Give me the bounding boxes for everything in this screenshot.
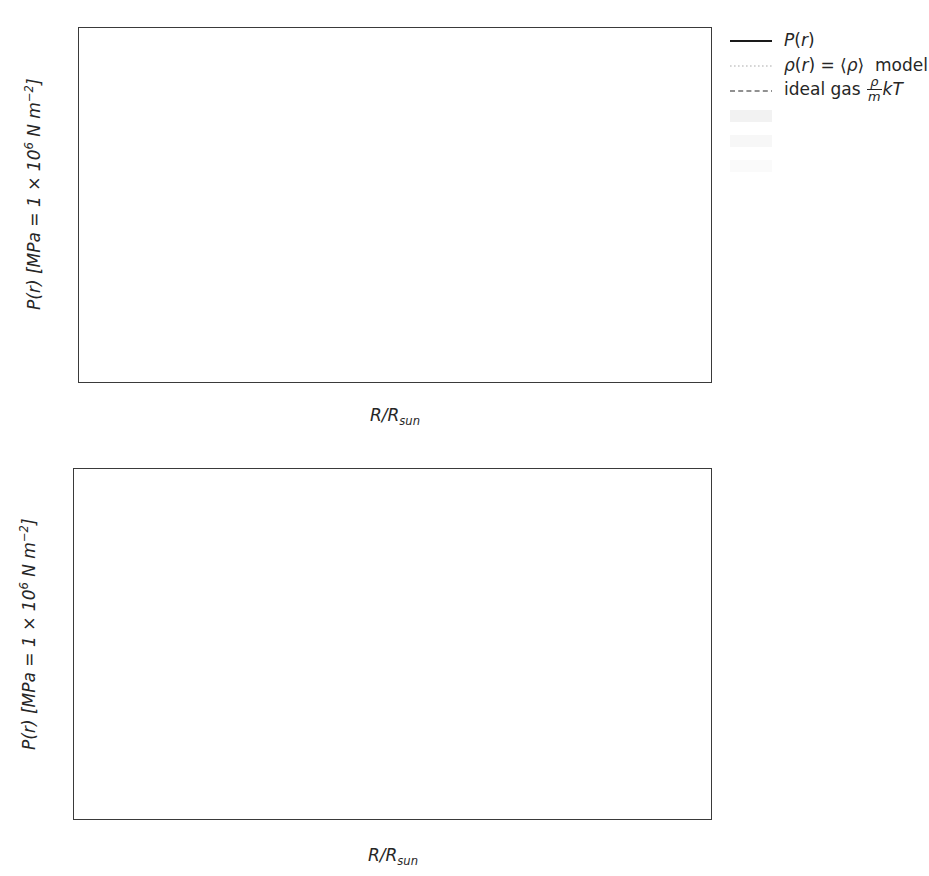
figure-canvas: R/Rsun P(r) [MPa = 1 × 106 N m−2] R/Rsun… [0, 0, 929, 876]
legend-key-dashed-line [729, 82, 773, 100]
bottom-axes-plot-area [73, 468, 712, 820]
legend-key-radiation-patch [729, 132, 773, 150]
bottom-log-axes [73, 468, 712, 820]
bottom-y-axis-title: P(r) [MPa = 1 × 106 N m−2] [17, 518, 39, 750]
legend-entry-constant-density-model: ρ(r) = ⟨ρ⟩ model [729, 53, 928, 78]
legend-key-convection-patch [729, 157, 773, 175]
legend-label-ideal-gas: ideal gas ρmkT [784, 76, 903, 104]
legend-entry-pressure: P(r) [729, 28, 928, 53]
legend-label-constant-density-model: ρ(r) = ⟨ρ⟩ model [784, 57, 928, 74]
top-linear-axes [78, 27, 712, 383]
bottom-x-axis-title: R/Rsun [368, 845, 418, 868]
top-y-axis-title: P(r) [MPa = 1 × 106 N m−2] [22, 78, 44, 310]
legend-label-pressure: P(r) [784, 32, 815, 49]
legend-key-core-patch [729, 107, 773, 125]
legend-entry-convection [729, 153, 928, 178]
top-axes-plot-area [78, 27, 712, 383]
legend-entry-radiation [729, 128, 928, 153]
top-x-axis-title: R/Rsun [370, 405, 420, 428]
legend-entry-core [729, 103, 928, 128]
legend-key-dotted-line [729, 57, 773, 75]
legend: P(r) ρ(r) = ⟨ρ⟩ model ideal gas ρmkT [729, 28, 928, 178]
legend-entry-ideal-gas: ideal gas ρmkT [729, 78, 928, 103]
legend-key-solid-line [729, 32, 773, 50]
